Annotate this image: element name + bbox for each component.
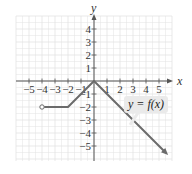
y-tick-label: −5 [79,140,91,152]
y-tick-label: −4 [79,127,91,139]
y-tick-label: 1 [86,62,92,74]
x-tick-label: −4 [36,83,48,95]
x-tick-label: 4 [143,83,149,95]
y-axis-label: y [90,1,97,15]
x-axis-label: x [176,74,183,88]
y-tick-label: −2 [79,101,91,113]
x-tick-label: −2 [62,83,74,95]
x-tick-label: −3 [49,83,61,95]
function-graph: xy −5−4−3−2−1123454321−1−2−3−4−5 y = f(x… [0,0,192,174]
axes: xy [16,1,183,161]
open-endpoint-circle [40,105,44,109]
y-tick-label: 2 [86,49,92,61]
x-tick-label: 3 [130,83,136,95]
y-tick-label: 3 [86,36,92,48]
x-tick-label: 5 [156,83,162,95]
y-tick-label: 4 [86,23,92,35]
callout-label: y = f(x) [127,97,164,111]
x-tick-label: 2 [117,83,123,95]
x-tick-label: −5 [23,83,35,95]
y-tick-label: −3 [79,114,91,126]
